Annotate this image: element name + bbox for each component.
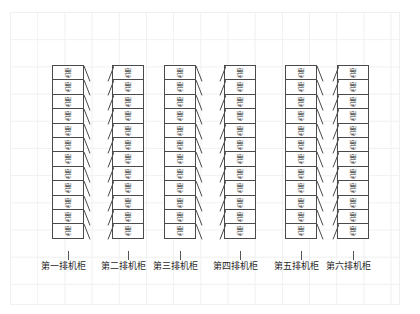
rack-unit[interactable]: 机柜 [52, 123, 84, 138]
rack-unit[interactable]: 机柜 [52, 166, 84, 181]
rack-unit[interactable]: 机柜 [52, 94, 84, 109]
rack-unit[interactable]: 机柜 [52, 79, 84, 94]
rack-unit[interactable]: 机柜 [337, 79, 369, 94]
rack-unit-label: 机柜 [125, 110, 130, 121]
rack-unit[interactable]: 机柜 [112, 137, 144, 152]
rack-unit-label: 机柜 [125, 96, 130, 107]
rack-row-3[interactable]: 机柜机柜机柜机柜机柜机柜机柜机柜机柜机柜机柜机柜 [164, 65, 196, 239]
rack-unit[interactable]: 机柜 [164, 180, 196, 195]
rack-unit[interactable]: 机柜 [52, 108, 84, 123]
rack-unit[interactable]: 机柜 [112, 65, 144, 80]
rack-unit[interactable]: 机柜 [164, 108, 196, 123]
rack-unit[interactable]: 机柜 [337, 123, 369, 138]
rack-unit[interactable]: 机柜 [337, 209, 369, 224]
rack-row-6[interactable]: 机柜机柜机柜机柜机柜机柜机柜机柜机柜机柜机柜机柜 [337, 65, 369, 239]
rack-row-5[interactable]: 机柜机柜机柜机柜机柜机柜机柜机柜机柜机柜机柜机柜 [285, 65, 317, 239]
rack-unit[interactable]: 机柜 [224, 180, 256, 195]
rack-unit[interactable]: 机柜 [224, 195, 256, 210]
rack-unit[interactable]: 机柜 [285, 223, 317, 238]
rack-unit[interactable]: 机柜 [112, 195, 144, 210]
rack-unit[interactable]: 机柜 [224, 79, 256, 94]
rack-unit[interactable]: 机柜 [164, 195, 196, 210]
rack-unit[interactable]: 机柜 [337, 166, 369, 181]
rack-unit[interactable]: 机柜 [52, 65, 84, 80]
rack-unit-label: 机柜 [125, 82, 130, 93]
rack-unit-label: 机柜 [65, 154, 70, 165]
rack-unit-label: 机柜 [298, 82, 303, 93]
rack-unit[interactable]: 机柜 [224, 223, 256, 238]
rack-unit-label: 机柜 [125, 67, 130, 78]
rack-unit[interactable]: 机柜 [285, 137, 317, 152]
rack-unit[interactable]: 机柜 [285, 166, 317, 181]
rack-row-2[interactable]: 机柜机柜机柜机柜机柜机柜机柜机柜机柜机柜机柜机柜 [112, 65, 144, 239]
rack-unit[interactable]: 机柜 [224, 166, 256, 181]
rack-unit[interactable]: 机柜 [224, 123, 256, 138]
rack-unit-label: 机柜 [350, 182, 355, 193]
rack-unit[interactable]: 机柜 [285, 108, 317, 123]
rack-unit-label: 机柜 [65, 226, 70, 237]
rack-unit[interactable]: 机柜 [164, 123, 196, 138]
rack-row-caption-5: 第五排机柜 [274, 261, 319, 272]
rack-unit[interactable]: 机柜 [285, 195, 317, 210]
rack-unit[interactable]: 机柜 [52, 195, 84, 210]
rack-unit[interactable]: 机柜 [337, 137, 369, 152]
rack-unit[interactable]: 机柜 [285, 79, 317, 94]
rack-unit-label: 机柜 [125, 182, 130, 193]
rack-unit[interactable]: 机柜 [164, 94, 196, 109]
rack-unit[interactable]: 机柜 [285, 94, 317, 109]
rack-unit-label: 机柜 [350, 67, 355, 78]
rack-unit[interactable]: 机柜 [164, 209, 196, 224]
rack-unit[interactable]: 机柜 [224, 137, 256, 152]
rack-unit[interactable]: 机柜 [337, 195, 369, 210]
rack-unit[interactable]: 机柜 [224, 108, 256, 123]
rack-unit[interactable]: 机柜 [112, 180, 144, 195]
rack-unit[interactable]: 机柜 [337, 108, 369, 123]
rack-unit-label: 机柜 [177, 154, 182, 165]
rack-row-4[interactable]: 机柜机柜机柜机柜机柜机柜机柜机柜机柜机柜机柜机柜 [224, 65, 256, 239]
rack-unit-label: 机柜 [65, 82, 70, 93]
rack-unit[interactable]: 机柜 [337, 94, 369, 109]
rack-unit[interactable]: 机柜 [112, 94, 144, 109]
rack-unit[interactable]: 机柜 [112, 151, 144, 166]
rack-unit[interactable]: 机柜 [224, 151, 256, 166]
rack-unit[interactable]: 机柜 [224, 65, 256, 80]
rack-unit-label: 机柜 [177, 211, 182, 222]
rack-unit[interactable]: 机柜 [337, 65, 369, 80]
rack-unit[interactable]: 机柜 [164, 65, 196, 80]
rack-unit[interactable]: 机柜 [285, 209, 317, 224]
rack-unit[interactable]: 机柜 [52, 137, 84, 152]
rack-unit-label: 机柜 [350, 168, 355, 179]
rack-unit[interactable]: 机柜 [164, 79, 196, 94]
rack-unit-label: 机柜 [65, 182, 70, 193]
rack-unit[interactable]: 机柜 [224, 94, 256, 109]
rack-unit-label: 机柜 [350, 96, 355, 107]
rack-unit[interactable]: 机柜 [164, 166, 196, 181]
rack-unit[interactable]: 机柜 [52, 151, 84, 166]
rack-unit[interactable]: 机柜 [52, 209, 84, 224]
rack-unit-label: 机柜 [65, 96, 70, 107]
rack-unit[interactable]: 机柜 [52, 223, 84, 238]
rack-unit[interactable]: 机柜 [112, 223, 144, 238]
rack-unit-label: 机柜 [125, 154, 130, 165]
rack-unit-label: 机柜 [125, 197, 130, 208]
rack-unit[interactable]: 机柜 [224, 209, 256, 224]
rack-unit-label: 机柜 [237, 67, 242, 78]
rack-unit-label: 机柜 [65, 125, 70, 136]
rack-unit[interactable]: 机柜 [285, 180, 317, 195]
rack-unit[interactable]: 机柜 [112, 123, 144, 138]
rack-unit[interactable]: 机柜 [285, 65, 317, 80]
rack-unit[interactable]: 机柜 [337, 151, 369, 166]
rack-unit[interactable]: 机柜 [337, 180, 369, 195]
rack-unit[interactable]: 机柜 [52, 180, 84, 195]
rack-unit[interactable]: 机柜 [164, 151, 196, 166]
rack-unit[interactable]: 机柜 [164, 137, 196, 152]
rack-unit[interactable]: 机柜 [285, 151, 317, 166]
rack-unit[interactable]: 机柜 [164, 223, 196, 238]
rack-row-1[interactable]: 机柜机柜机柜机柜机柜机柜机柜机柜机柜机柜机柜机柜 [52, 65, 84, 239]
rack-unit[interactable]: 机柜 [285, 123, 317, 138]
rack-unit[interactable]: 机柜 [112, 108, 144, 123]
rack-unit[interactable]: 机柜 [112, 79, 144, 94]
rack-unit[interactable]: 机柜 [337, 223, 369, 238]
rack-unit[interactable]: 机柜 [112, 209, 144, 224]
rack-unit[interactable]: 机柜 [112, 166, 144, 181]
